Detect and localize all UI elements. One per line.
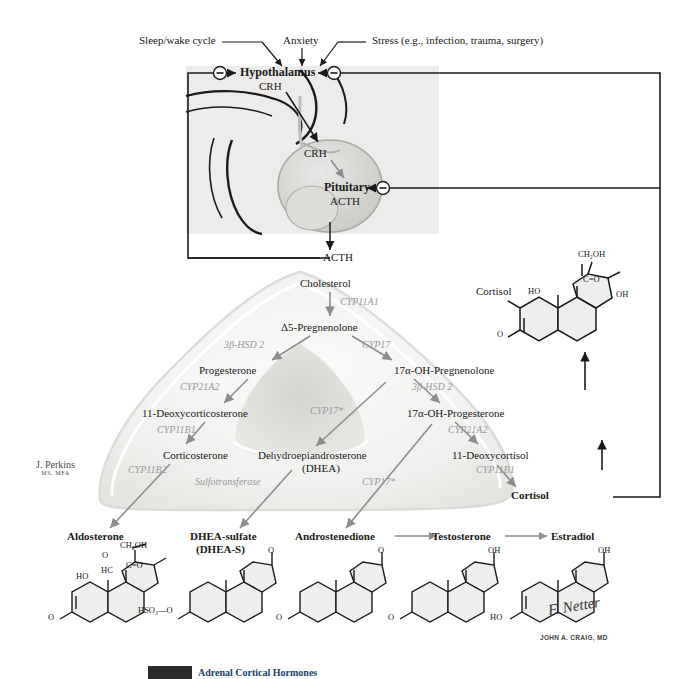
circulating-acth-label: ACTH <box>323 251 353 264</box>
aldo-atom-hc: HC <box>101 566 113 576</box>
node-pregnenolone: Δ5-Pregnenolone <box>281 321 358 334</box>
node-progesterone: Progesterone <box>199 364 256 377</box>
cortisol-atom-oh: OH <box>616 290 628 300</box>
enzyme-cyp11b1-right: CYP11B1 <box>476 464 515 475</box>
caption-text: Adrenal Cortical Hormones <box>198 667 317 678</box>
cortisol-atom-c-o: C=O <box>583 275 600 285</box>
dheas-atom-o: O <box>268 546 274 556</box>
enzyme-cyp11b2: CYP11B2 <box>128 464 167 475</box>
cortisol-atom-o: O <box>497 330 503 340</box>
pituitary-acth-label: ACTH <box>330 195 360 208</box>
aldo-atom-o2: O <box>48 613 54 623</box>
craig-signature: JOHN A. CRAIG, MD <box>540 634 608 641</box>
portal-crh-label: CRH <box>304 147 327 160</box>
node-dhea: Dehydroepiandrosterone <box>258 449 367 462</box>
enzyme-cyp11b1-left: CYP11B1 <box>157 424 196 435</box>
caption-number-block <box>148 666 192 679</box>
enzyme-sulfotransferase: Sulfotransferase <box>195 476 261 487</box>
andro-atom-o2: O <box>276 613 282 623</box>
diagram-vector-layer <box>0 0 683 679</box>
cortisol-atom-ho: HO <box>528 287 540 297</box>
pituitary-label: Pituitary <box>324 181 370 195</box>
testo-atom-oh: OH <box>488 546 500 556</box>
product-dhea-sulfate-abbrev: (DHEA-S) <box>196 543 245 556</box>
enzyme-3bhsd2-right: 3β-HSD 2 <box>412 381 452 392</box>
node-oh-progesterone: 17α-OH-Progesterone <box>407 407 504 420</box>
figure-canvas: Sleep/wake cycle Anxiety Stress (e.g., i… <box>0 0 683 679</box>
hypothalamus-crh-label: CRH <box>259 80 282 93</box>
node-corticosterone: Corticosterone <box>163 449 228 462</box>
testo-atom-o: O <box>388 613 394 623</box>
aldo-atom-ch2oh: CH₂OH <box>120 541 147 551</box>
product-estradiol: Estradiol <box>551 530 594 543</box>
estra-atom-ho: HO <box>490 613 502 623</box>
cortisol-atom-ch2oh: CH₂OH <box>578 250 605 260</box>
node-deoxycortisol: 11-Deoxycortisol <box>452 449 529 462</box>
artist-credit: J. Perkins MS, MFA <box>36 459 75 476</box>
input-anxiety-label: Anxiety <box>283 34 318 47</box>
product-testosterone: Testosterone <box>432 530 491 543</box>
artist-degrees: MS, MFA <box>36 470 75 476</box>
aldo-atom-o: O <box>102 551 108 561</box>
node-dhea-abbrev: (DHEA) <box>302 462 340 475</box>
product-dhea-sulfate: DHEA-sulfate <box>190 530 257 543</box>
enzyme-3bhsd2-left: 3β-HSD 2 <box>224 339 264 350</box>
product-aldosterone: Aldosterone <box>67 530 124 543</box>
input-sleep-wake-label: Sleep/wake cycle <box>139 34 216 47</box>
cortisol-structure-label: Cortisol <box>476 285 511 298</box>
node-oh-pregnenolone: 17α-OH-Pregnenolone <box>394 364 494 377</box>
aldo-atom-c-o: C=O <box>126 561 143 571</box>
hypothalamus-label: Hypothalamus <box>240 66 315 80</box>
input-stress-label: Stress (e.g., infection, trauma, surgery… <box>372 34 543 47</box>
node-cortisol: Cortisol <box>511 489 549 502</box>
enzyme-cyp17-star-mid: CYP17* <box>310 405 343 416</box>
enzyme-cyp11a1: CYP11A1 <box>340 296 379 307</box>
estra-atom-oh: OH <box>598 546 610 556</box>
andro-atom-o1: O <box>378 546 384 556</box>
enzyme-cyp21a2-right: CYP21A2 <box>448 424 487 435</box>
node-deoxycorticosterone: 11-Deoxycorticosterone <box>142 407 248 420</box>
product-androstenedione: Androstenedione <box>295 530 375 543</box>
enzyme-cyp17-star-low: CYP17* <box>362 476 395 487</box>
enzyme-cyp21a2-left: CYP21A2 <box>180 381 219 392</box>
artist-name: J. Perkins <box>36 459 75 470</box>
node-cholesterol: Cholesterol <box>300 277 351 290</box>
aldo-atom-ho: HO <box>76 572 88 582</box>
enzyme-cyp17: CYP17 <box>362 339 390 350</box>
dheas-atom-hso3: HSO₃—O <box>138 606 173 616</box>
